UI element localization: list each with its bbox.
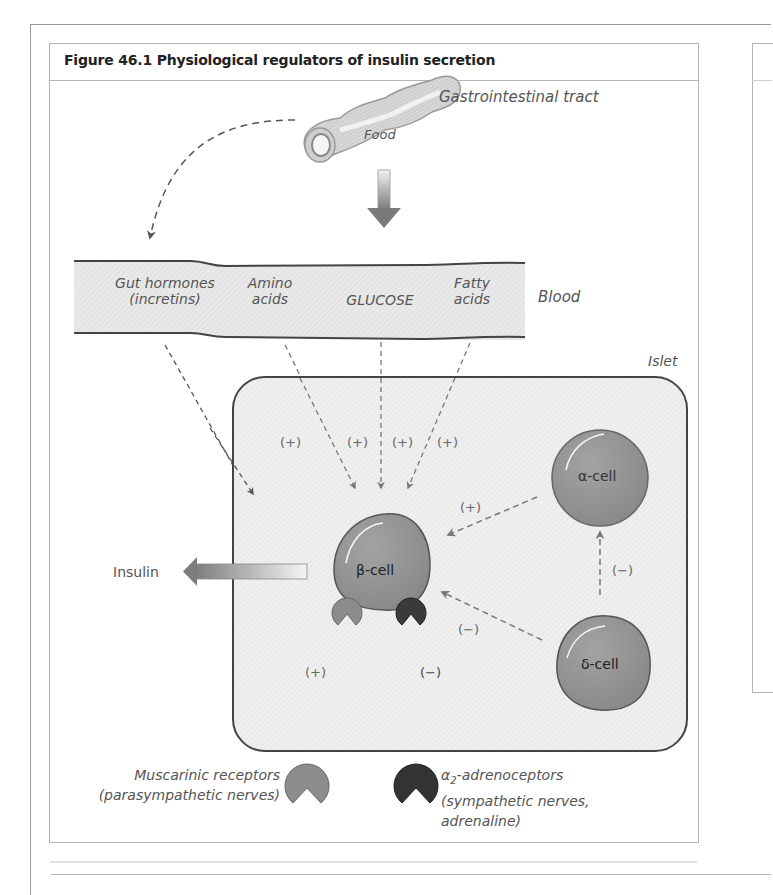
delta-cell-label: δ-cell xyxy=(581,656,619,672)
food-label: Food xyxy=(364,127,396,142)
gi-tract-label: Gastrointestinal tract xyxy=(439,88,599,106)
delta-to-beta-sign: (−) xyxy=(458,622,479,637)
gut-hormones-label: Gut hormones (incretins) xyxy=(100,275,230,307)
gi-tract-illustration xyxy=(304,76,460,162)
insulin-label: Insulin xyxy=(113,564,159,580)
islet-label: Islet xyxy=(648,353,677,369)
legend-muscarinic: Muscarinic receptors (parasympathetic ne… xyxy=(60,765,280,805)
legend-adrenoceptor-icon xyxy=(394,764,438,803)
legend-adrenoceptor: α2-adrenoceptors (sympathetic nerves, ad… xyxy=(441,765,590,831)
glucose-sign: (+) xyxy=(392,435,413,450)
alpha-to-beta-sign: (+) xyxy=(460,500,481,515)
beta-cell-label: β-cell xyxy=(356,562,394,578)
absorption-arrow xyxy=(367,170,401,228)
glucose-label: GLUCOSE xyxy=(330,275,430,308)
gut-hormones-sign: (+) xyxy=(280,435,301,450)
fatty-acids-sign: (+) xyxy=(437,435,458,450)
alpha-cell-label: α-cell xyxy=(578,468,616,484)
muscarinic-sign: (+) xyxy=(305,665,326,680)
fatty-acids-label: Fatty acids xyxy=(442,275,502,307)
legend-muscarinic-icon xyxy=(285,764,329,803)
adrenergic-sign: (−) xyxy=(420,665,441,680)
blood-label: Blood xyxy=(538,288,580,306)
amino-acids-sign: (+) xyxy=(347,435,368,450)
delta-to-alpha-sign: (−) xyxy=(612,563,633,578)
amino-acids-label: Amino acids xyxy=(240,275,300,307)
incretin-dashed-arrow xyxy=(150,120,295,238)
